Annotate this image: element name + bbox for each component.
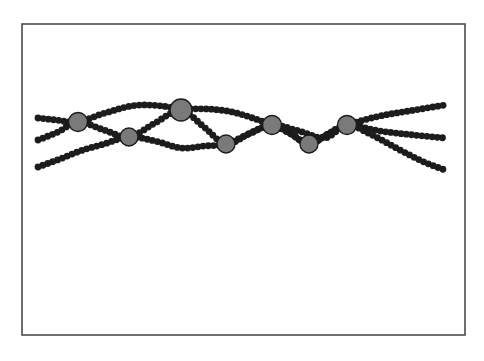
crossing-node-1 bbox=[69, 113, 88, 132]
crossing-node-3 bbox=[170, 99, 192, 121]
figure-canvas bbox=[0, 0, 484, 361]
bead-marker bbox=[439, 134, 446, 141]
crossing-node-5 bbox=[263, 116, 282, 135]
bead-marker bbox=[440, 102, 447, 109]
braid-diagram bbox=[0, 0, 484, 361]
crossing-node-6 bbox=[300, 135, 318, 153]
crossing-node-2 bbox=[120, 128, 138, 146]
crossing-node-7 bbox=[338, 116, 357, 135]
crossing-node-4 bbox=[217, 135, 235, 153]
figure-background bbox=[0, 0, 484, 361]
bead-marker bbox=[440, 166, 447, 173]
